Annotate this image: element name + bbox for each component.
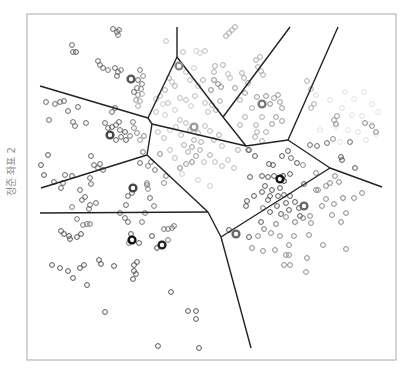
- voronoi-scatter-chart: [0, 0, 405, 372]
- y-axis-label: 정준 좌표 2: [3, 140, 17, 200]
- boundary-line: [40, 212, 208, 213]
- plot-frame: [27, 14, 396, 360]
- y-axis-label-text: 정준 좌표 2: [3, 142, 18, 202]
